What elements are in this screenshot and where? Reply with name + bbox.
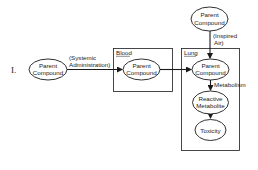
inspired-label-line1: (Inspired — [213, 32, 238, 39]
blood-label: Blood — [116, 49, 132, 56]
systemic-label-line1: (Systemic — [69, 54, 96, 61]
node-label-line2: Compound — [126, 69, 157, 76]
node-blood-parent-compound: Parent Compound — [123, 59, 160, 80]
metabolism-label: Metabolism — [214, 81, 246, 88]
node-reactive-metabolite: Reactive Metabolite — [193, 91, 229, 114]
node-label-line2: Compound — [195, 69, 226, 76]
edge-metabolism: Metabolism — [211, 80, 246, 90]
node-label-line1: Parent — [200, 11, 219, 18]
node-toxicity: Toxicity — [195, 120, 226, 141]
node-label-line1: Parent — [39, 62, 58, 69]
pathway-diagram: I. Blood Lung (Systemic Administration) … — [0, 0, 258, 170]
node-inhaled-parent-compound: Parent Compound — [191, 7, 228, 31]
edge-inspired-air: (Inspired Air) — [210, 31, 238, 58]
node-label-line1: Parent — [201, 62, 220, 69]
node-label-line2: Compound — [33, 69, 64, 76]
node-label-line2: Metabolite — [196, 102, 225, 109]
node-label: Toxicity — [200, 127, 221, 134]
panel-label: I. — [11, 65, 16, 75]
node-label-line1: Parent — [132, 62, 151, 69]
node-label-line2: Compound — [194, 19, 225, 26]
lung-label: Lung — [184, 49, 198, 56]
systemic-label-line2: Administration) — [69, 61, 110, 68]
node-label-line1: Reactive — [198, 95, 223, 102]
inspired-label-line2: Air) — [214, 39, 224, 46]
node-lung-parent-compound: Parent Compound — [192, 59, 229, 80]
node-source-parent-compound: Parent Compound — [29, 59, 67, 80]
